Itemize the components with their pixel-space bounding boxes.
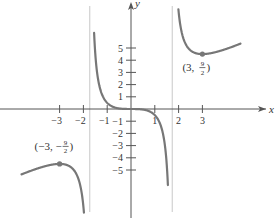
critical-point-marker <box>57 161 62 166</box>
x-axis-label: x <box>268 103 274 115</box>
label-text: (3, <box>182 61 194 74</box>
curve-left-branch <box>22 164 84 213</box>
y-tick-label: −5 <box>112 165 123 176</box>
y-tick-label: −2 <box>112 128 123 139</box>
critical-point-label: (−3, −92) <box>35 139 74 156</box>
y-tick-label: 1 <box>118 91 123 102</box>
y-tick-label: −4 <box>112 152 123 163</box>
y-tick-label: 2 <box>118 79 123 90</box>
label-numerator: 9 <box>201 60 205 68</box>
x-tick-label: 3 <box>200 115 205 126</box>
y-axis-label: y <box>134 0 140 9</box>
y-tick-label: 5 <box>118 43 123 54</box>
critical-point-marker <box>200 52 205 57</box>
label-denominator: 2 <box>64 147 68 155</box>
y-tick-label: −1 <box>112 116 123 127</box>
label-close: ) <box>206 61 210 74</box>
curve-right-branch <box>178 9 240 54</box>
y-tick-label: −3 <box>112 140 123 151</box>
x-tick-label: 2 <box>176 115 181 126</box>
function-graph: xy −3−2−1123−5−4−3−2−112345 (3,92)(−3, −… <box>0 0 278 218</box>
label-numerator: 9 <box>64 139 68 147</box>
x-tick-label: −1 <box>99 115 110 126</box>
label-close: ) <box>70 140 74 153</box>
x-tick-label: −3 <box>51 115 62 126</box>
y-tick-label: 3 <box>118 67 123 78</box>
critical-point-label: (3,92) <box>182 60 210 77</box>
y-tick-label: 4 <box>118 55 123 66</box>
x-tick-label: −2 <box>75 115 86 126</box>
label-text: (−3, − <box>35 140 62 153</box>
label-denominator: 2 <box>201 69 205 77</box>
